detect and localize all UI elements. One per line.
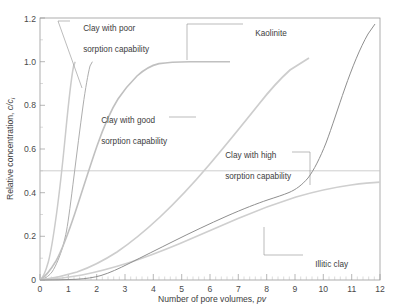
y-tick-labels: 0 0.2 0.4 0.6 0.8 1.0 1.2 xyxy=(24,14,36,286)
annotation-clay-good: Clay with good sorption capability xyxy=(92,106,167,157)
chart-figure: 0 0.2 0.4 0.6 0.8 1.0 1.2 xyxy=(0,0,402,304)
y-axis-title: Relative concentration, c/ci xyxy=(5,97,16,200)
annotation-kaolinite-label: Kaolinite xyxy=(255,29,287,38)
annotation-illitic-label: Illitic clay xyxy=(315,260,348,269)
x-tick-12: 12 xyxy=(375,284,385,294)
y-axis-title-main: Relative concentration, xyxy=(5,110,15,200)
y-tick-0: 0 xyxy=(31,275,36,285)
x-tick-3: 3 xyxy=(123,284,128,294)
annotation-clay-high: Clay with high sorption capability xyxy=(216,141,291,192)
annotation-clay-high-line2: sorption capability xyxy=(225,172,291,181)
annotation-clay-high-line1: Clay with high xyxy=(225,151,276,160)
x-tick-0: 0 xyxy=(38,284,43,294)
x-axis-title: Number of pore volumes, pv xyxy=(158,294,267,304)
x-tick-10: 10 xyxy=(319,284,329,294)
annotation-kaolinite: Kaolinite xyxy=(246,19,287,50)
x-tick-5: 5 xyxy=(179,284,184,294)
annotation-illitic: Illitic clay xyxy=(306,250,348,281)
x-tick-8: 8 xyxy=(264,284,269,294)
x-tick-9: 9 xyxy=(293,284,298,294)
x-tick-6: 6 xyxy=(208,284,213,294)
x-tick-labels: 0 1 2 3 4 5 6 7 8 9 10 11 12 xyxy=(38,284,385,294)
y-tick-4: 0.8 xyxy=(24,100,36,110)
annotation-clay-poor-line2: sorption capability xyxy=(83,45,149,54)
x-tick-1: 1 xyxy=(66,284,71,294)
y-tick-5: 1.0 xyxy=(24,57,36,67)
x-tick-2: 2 xyxy=(94,284,99,294)
x-tick-7: 7 xyxy=(236,284,241,294)
annotation-clay-poor: Clay with poor sorption capability xyxy=(74,14,149,65)
x-axis-title-italic: pv xyxy=(256,294,267,304)
x-axis-title-main: Number of pore volumes, xyxy=(158,294,257,304)
y-axis-title-italic: c/c xyxy=(5,99,15,111)
annotation-clay-poor-line1: Clay with poor xyxy=(83,24,135,33)
y-tick-3: 0.6 xyxy=(24,144,36,154)
x-tick-11: 11 xyxy=(347,284,356,294)
y-tick-1: 0.2 xyxy=(24,231,36,241)
annotation-clay-good-line1: Clay with good xyxy=(101,116,155,125)
y-axis-title-sub: i xyxy=(9,97,16,99)
y-tick-6: 1.2 xyxy=(24,14,36,24)
x-tick-4: 4 xyxy=(151,284,156,294)
y-tick-2: 0.4 xyxy=(24,188,36,198)
annotation-clay-good-line2: sorption capability xyxy=(101,137,167,146)
